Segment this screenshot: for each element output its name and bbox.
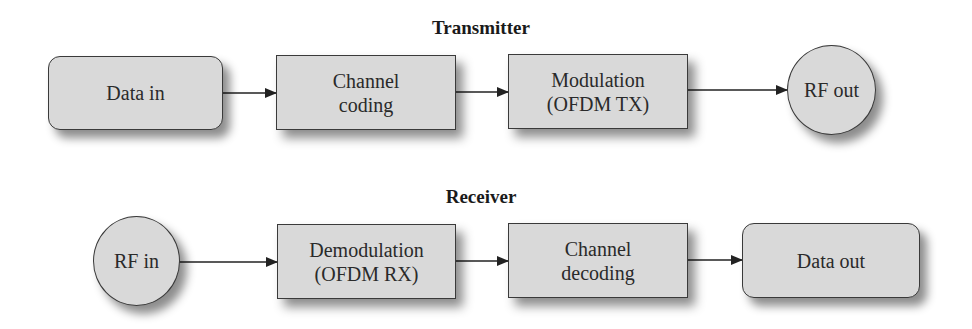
- node-demodulation: Demodulation (OFDM RX): [277, 224, 456, 299]
- node-label: Channel coding: [333, 69, 400, 117]
- node-channel-decoding: Channel decoding: [508, 223, 688, 298]
- node-label: Demodulation (OFDM RX): [309, 238, 423, 286]
- node-rf-out: RF out: [787, 45, 876, 135]
- node-channel-coding: Channel coding: [276, 55, 456, 130]
- node-label: RF out: [804, 78, 859, 102]
- node-label: Channel decoding: [561, 237, 634, 285]
- node-label: RF in: [114, 249, 159, 273]
- receiver-title: Receiver: [0, 186, 962, 208]
- node-label: Data out: [797, 249, 865, 273]
- node-label: Modulation (OFDM TX): [547, 68, 649, 116]
- node-modulation: Modulation (OFDM TX): [508, 54, 688, 129]
- node-label: Data in: [106, 81, 164, 105]
- node-data-in: Data in: [48, 56, 223, 130]
- node-rf-in: RF in: [93, 216, 180, 306]
- transmitter-title: Transmitter: [0, 17, 962, 39]
- node-data-out: Data out: [742, 223, 920, 298]
